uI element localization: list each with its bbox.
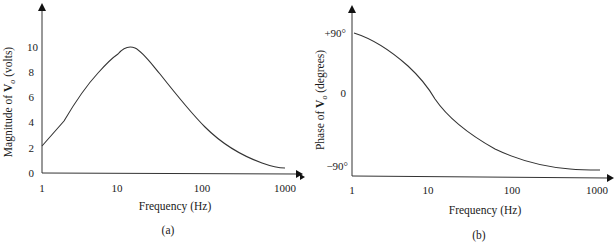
- ytick-a-8: 8: [29, 66, 35, 78]
- x-axis-b: [352, 176, 608, 178]
- xtick-b-1: 1: [349, 184, 355, 196]
- xlabel-a: Frequency (Hz): [139, 200, 212, 213]
- xtick-a-10: 10: [112, 182, 124, 194]
- ytick-a-6: 6: [29, 91, 35, 103]
- x-axis-arrow-icon: [607, 174, 614, 182]
- xtick-b-1000: 1000: [586, 184, 609, 196]
- y-axis-arrow-icon: [38, 3, 46, 11]
- ytick-a-10: 10: [27, 41, 39, 53]
- y-axis-arrow-icon: [348, 5, 356, 13]
- ylabel-b: Phase of Vo (degrees): [314, 50, 329, 150]
- caption-a: (a): [162, 224, 175, 237]
- ytick-b-0: 0: [341, 87, 347, 99]
- xtick-b-10: 10: [423, 184, 435, 196]
- xtick-a-1000: 1000: [274, 182, 297, 194]
- xlabel-b: Frequency (Hz): [449, 204, 522, 217]
- phase-curve: [354, 33, 600, 170]
- figure: 0 2 4 6 8 10 1 10 100 1000 Frequency (Hz…: [0, 0, 616, 247]
- stray-arrow-icon: [300, 174, 305, 180]
- xtick-b-100: 100: [504, 184, 521, 196]
- ylabel-a: Magnitude of Vo (volts): [2, 47, 17, 158]
- ytick-b-plus90: +90°: [324, 27, 346, 39]
- magnitude-curve: [42, 47, 285, 168]
- x-axis-a: [42, 173, 296, 174]
- xtick-a-1: 1: [39, 182, 45, 194]
- xtick-a-100: 100: [194, 182, 211, 194]
- chart-a: 0 2 4 6 8 10 1 10 100 1000 Frequency (Hz…: [2, 3, 303, 237]
- ytick-a-0: 0: [29, 167, 35, 179]
- ytick-a-2: 2: [29, 142, 35, 154]
- ytick-b-minus90: −90°: [326, 160, 348, 172]
- caption-b: (b): [472, 229, 486, 242]
- ytick-a-4: 4: [29, 116, 35, 128]
- chart-b: +90° 0 −90° 1 10 100 1000 Frequency (Hz)…: [300, 5, 614, 242]
